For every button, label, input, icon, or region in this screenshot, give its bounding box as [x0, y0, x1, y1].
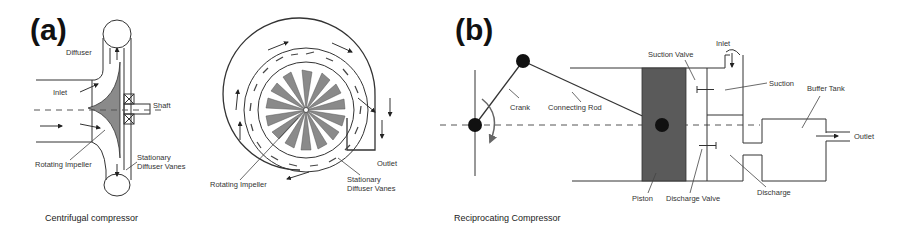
label-discharge-valve: Discharge Valve	[666, 194, 720, 203]
label-stationary-side-2: Diffuser Vanes	[137, 162, 186, 171]
compressor-diagram: (a)	[0, 0, 902, 240]
volute-bottom-circle	[104, 174, 130, 196]
rotation-arrow	[482, 99, 495, 142]
centrifugal-front-view: Rotating Impeller Stationary Diffuser Va…	[210, 18, 398, 193]
panel-a: (a)	[30, 13, 398, 223]
label-connecting-rod: Connecting Rod	[548, 103, 602, 112]
crank-pivot	[468, 118, 482, 132]
label-stationary-front-1: Stationary	[347, 175, 381, 184]
label-outlet-front: Outlet	[377, 159, 398, 168]
crank-pin	[516, 54, 530, 68]
label-diffuser: Diffuser	[66, 48, 92, 57]
buffer-tank-lower	[743, 141, 826, 181]
label-suction-valve: Suction Valve	[648, 50, 693, 59]
label-rotating-impeller-front: Rotating Impeller	[210, 180, 267, 189]
label-inlet: Inlet	[53, 88, 68, 97]
panel-b-label: (b)	[455, 13, 493, 46]
label-discharge: Discharge	[757, 188, 791, 197]
panel-a-label: (a)	[30, 13, 67, 46]
caption-a: Centrifugal compressor	[45, 213, 138, 223]
panel-b: (b)	[440, 13, 875, 223]
label-crank: Crank	[510, 103, 530, 112]
shaft	[124, 104, 150, 114]
label-buffer-tank: Buffer Tank	[807, 84, 845, 93]
crank-arm	[475, 61, 523, 125]
centrifugal-side-view: Diffuser Inlet Shaft Rotating Impeller S…	[34, 20, 186, 196]
connecting-rod	[523, 61, 662, 125]
label-stationary-front-2: Diffuser Vanes	[347, 184, 396, 193]
label-stationary-side-1: Stationary	[137, 153, 171, 162]
caption-b: Reciprocating Compressor	[454, 213, 561, 223]
label-rotating-impeller-side: Rotating Impeller	[35, 160, 92, 169]
label-suction: Suction	[769, 79, 794, 88]
volute-top-circle	[103, 20, 131, 48]
label-piston: Piston	[632, 194, 653, 203]
impeller-hub-center	[304, 108, 309, 113]
label-inlet-b: Inlet	[716, 39, 731, 48]
suction-valve	[697, 86, 714, 93]
inlet-neck	[725, 55, 730, 68]
buffer-tank-upper	[743, 119, 826, 143]
label-outlet-b: Outlet	[854, 132, 875, 141]
label-shaft: Shaft	[153, 101, 171, 110]
wrist-pin	[655, 118, 669, 132]
